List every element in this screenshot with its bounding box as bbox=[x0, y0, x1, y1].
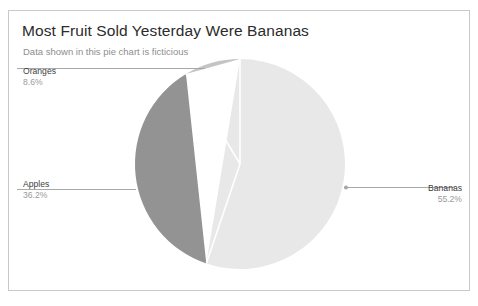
pie-slice-bananas[interactable] bbox=[206, 59, 345, 269]
pie-label-bananas-name: Bananas bbox=[408, 183, 462, 194]
screenshot-root: Most Fruit Sold Yesterday Were Bananas D… bbox=[0, 0, 478, 306]
pie-label-apples[interactable]: Apples 36.2% bbox=[23, 179, 49, 201]
pie-label-oranges-value: 8.6% bbox=[23, 77, 56, 88]
pie-label-bananas-value: 55.2% bbox=[408, 194, 462, 205]
pie-chart: Oranges 8.6% Apples 36.2% Bananas 55.2% bbox=[9, 11, 469, 290]
pie-chart-svg bbox=[9, 11, 469, 290]
chart-card: Most Fruit Sold Yesterday Were Bananas D… bbox=[8, 10, 470, 291]
pie-slice-apples[interactable] bbox=[135, 74, 206, 263]
pie-label-apples-value: 36.2% bbox=[23, 190, 49, 201]
pie-label-oranges-name: Oranges bbox=[23, 66, 56, 77]
pie-label-oranges[interactable]: Oranges 8.6% bbox=[23, 66, 56, 88]
leader-dot-bananas bbox=[344, 185, 348, 189]
pie-label-apples-name: Apples bbox=[23, 179, 49, 190]
pie-label-bananas[interactable]: Bananas 55.2% bbox=[408, 183, 462, 205]
pie-slice-oranges[interactable] bbox=[186, 59, 240, 74]
